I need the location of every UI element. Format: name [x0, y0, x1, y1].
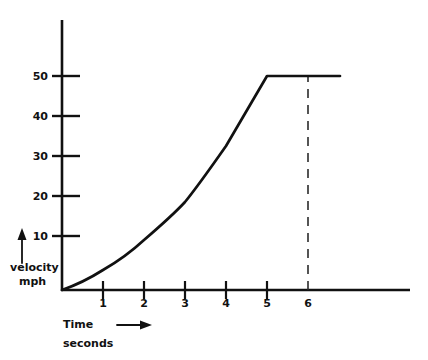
x-tick-label-5: 5	[259, 298, 275, 309]
velocity-time-chart: 50 40 30 20 10 1 2 3 4 5 6 velocity mph …	[0, 0, 428, 360]
y-axis-title-mph: mph	[19, 276, 46, 287]
x-tick-label-2: 2	[136, 298, 152, 309]
x-tick-label-6: 6	[300, 298, 316, 309]
right-arrow-icon	[140, 321, 152, 330]
x-tick-label-1: 1	[95, 298, 111, 309]
x-tick-label-3: 3	[177, 298, 193, 309]
velocity-curve	[62, 76, 340, 290]
y-tick-label-50: 50	[26, 71, 48, 82]
y-tick-label-40: 40	[26, 111, 48, 122]
y-tick-label-10: 10	[26, 231, 48, 242]
x-tick-label-4: 4	[218, 298, 234, 309]
x-axis-title-seconds: seconds	[63, 338, 113, 349]
y-tick-label-30: 30	[26, 151, 48, 162]
y-tick-label-20: 20	[26, 191, 48, 202]
chart-canvas	[0, 0, 428, 360]
y-axis-title-velocity: velocity	[10, 262, 59, 273]
x-axis-title-time: Time	[63, 319, 93, 330]
